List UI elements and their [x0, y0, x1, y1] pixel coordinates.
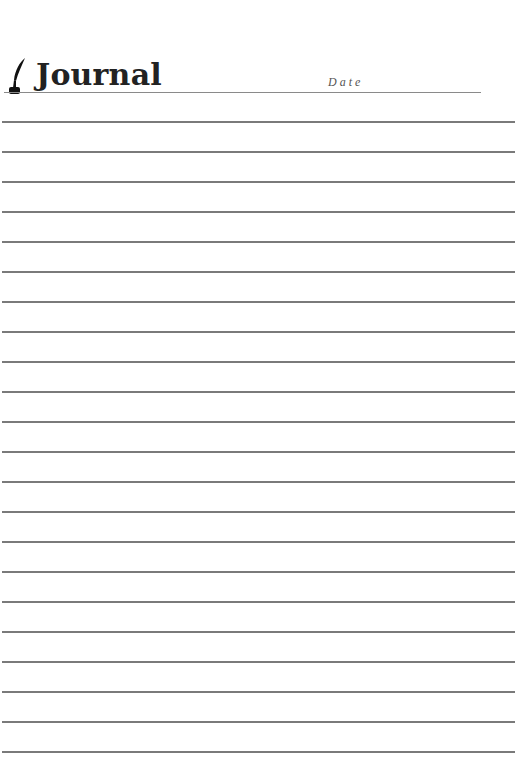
- ruled-line: [2, 541, 515, 543]
- ruled-line: [2, 691, 515, 693]
- ruled-line: [2, 571, 515, 573]
- ruled-line: [2, 601, 515, 603]
- ruled-line: [2, 421, 515, 423]
- ruled-line: [2, 721, 515, 723]
- ruled-line: [2, 481, 515, 483]
- journal-header: Journal Date: [0, 55, 517, 95]
- quill-pen-icon: [6, 58, 28, 94]
- ruled-line: [2, 451, 515, 453]
- ruled-line: [2, 361, 515, 363]
- ruled-line: [2, 271, 515, 273]
- ruled-line: [2, 331, 515, 333]
- ruled-line: [2, 121, 515, 123]
- ruled-line: [2, 151, 515, 153]
- ruled-line: [2, 181, 515, 183]
- ruled-line: [2, 211, 515, 213]
- ruled-line: [2, 241, 515, 243]
- header-rule: [4, 92, 481, 93]
- date-label: Date: [328, 75, 363, 89]
- ruled-line: [2, 751, 515, 753]
- ruled-line: [2, 391, 515, 393]
- ruled-line: [2, 301, 515, 303]
- journal-page: Journal Date: [0, 0, 517, 780]
- ruled-line: [2, 631, 515, 633]
- ruled-line: [2, 661, 515, 663]
- page-title: Journal: [36, 57, 162, 93]
- ruled-line: [2, 511, 515, 513]
